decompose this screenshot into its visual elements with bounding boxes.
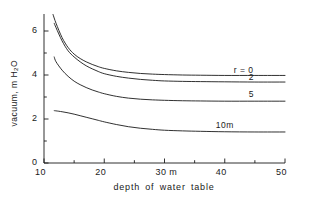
x-tick-label: 40	[216, 168, 227, 177]
y-tick-label: 6	[32, 26, 37, 35]
chart-figure: 102030 m40500246 r = 02510m vacuum, m H2…	[0, 0, 311, 200]
y-axis-title-text: vacuum, m H	[9, 71, 19, 127]
series-label: 10m	[216, 121, 234, 130]
x-tick-label: 50	[276, 168, 287, 177]
x-tick-label: 20	[95, 168, 106, 177]
x-tick-label: 10	[35, 168, 46, 177]
x-axis-title: depth of water table	[44, 182, 284, 192]
y-axis-title-subscript: 2	[12, 67, 19, 71]
series-label: 2	[249, 73, 254, 82]
y-tick-label: 0	[32, 158, 37, 167]
x-tick-label: 30 m	[156, 168, 178, 177]
y-tick-label: 2	[32, 114, 37, 123]
y-tick-label: 4	[32, 70, 37, 79]
series-label: 5	[249, 90, 254, 99]
y-axis-title-suffix: O	[9, 60, 19, 67]
y-axis-title: vacuum, m H2O	[9, 58, 19, 128]
series-line	[54, 111, 285, 132]
